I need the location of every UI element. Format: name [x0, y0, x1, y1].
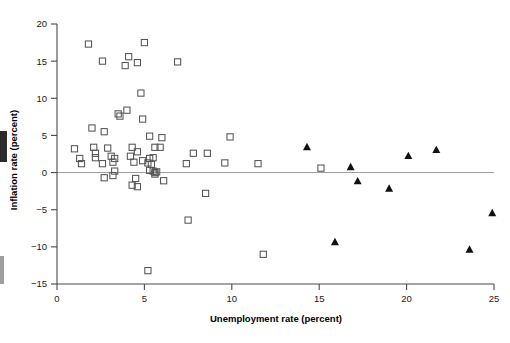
- x-tick-label: 10: [227, 293, 238, 304]
- x-tick-label: 5: [142, 293, 147, 304]
- x-tick-label: 15: [314, 293, 325, 304]
- x-axis-title: Unemployment rate (percent): [210, 313, 342, 324]
- y-tick-label: 20: [36, 18, 47, 29]
- scan-edge-mark-bottom: [0, 256, 4, 284]
- y-tick-label: −5: [36, 204, 47, 215]
- scan-edge-mark-top: [0, 131, 7, 162]
- y-tick-label: −10: [31, 241, 47, 252]
- scatter-plot-figure: 20151050−5−10−150510152025 Unemployment …: [0, 0, 510, 343]
- x-tick-label: 25: [489, 293, 500, 304]
- y-tick-label: −15: [31, 278, 47, 289]
- plot-canvas: 20151050−5−10−150510152025 Unemployment …: [0, 0, 510, 343]
- y-tick-label: 0: [42, 167, 47, 178]
- y-tick-label: 10: [36, 93, 47, 104]
- y-tick-label: 5: [42, 130, 47, 141]
- x-tick-label: 0: [54, 293, 59, 304]
- y-axis-title: Inflation rate (percent): [8, 110, 19, 210]
- plot-background: [0, 0, 510, 343]
- y-tick-label: 15: [36, 56, 47, 67]
- x-tick-label: 20: [401, 293, 412, 304]
